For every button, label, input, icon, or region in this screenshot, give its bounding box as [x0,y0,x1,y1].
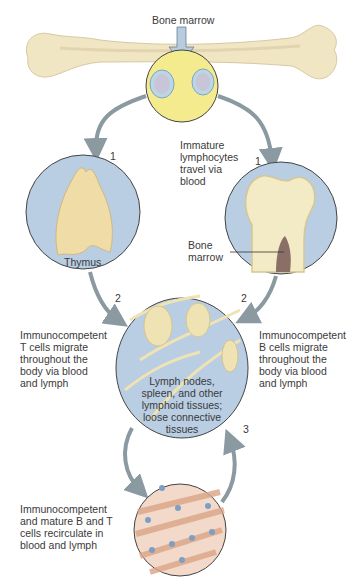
blood-lymph-tissue-circle [134,484,226,576]
thymus-circle [26,155,140,269]
diagram-artwork [0,0,363,579]
arrow-to-blood [125,428,140,490]
step-1-right: 1 [255,155,261,167]
recirculate-label: Immunocompetent and mature B and T cells… [20,503,113,551]
bone-inset-circle [225,162,337,274]
bone-marrow-cells-circle [146,50,218,122]
bone-marrow-top-label: Bone marrow [152,14,214,26]
step-2-right: 2 [241,292,247,304]
immature-lymphocytes-label: Immature lymphocytes travel via blood [180,139,238,187]
t-cells-label: Immunocompetent T cells migrate througho… [20,329,107,389]
bone-marrow-inset-label: Bone marrow [188,239,223,263]
arrow-to-lymph [222,440,235,502]
arrow-t-cells [90,272,118,320]
step-1-left: 1 [110,150,116,162]
arrow-to-thymus [96,96,146,150]
b-cells-label: Immunocompetent B cells migrate througho… [259,329,346,389]
arrow-b-cells [246,276,276,318]
step-2-left: 2 [115,292,121,304]
lymph-nodes-label: Lymph nodes, spleen, and other lymphoid … [130,375,234,435]
step-3: 3 [243,423,249,435]
thymus-label: Thymus [64,256,101,268]
